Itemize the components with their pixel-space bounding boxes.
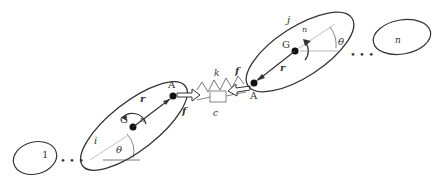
spring-k-label: k bbox=[214, 68, 219, 78]
body-1: 1 bbox=[10, 137, 61, 179]
theta-i-label: θ bbox=[116, 144, 122, 155]
body-nb-label: n bbox=[395, 35, 401, 45]
damper: c bbox=[197, 91, 246, 118]
force-fj-label: f bbox=[234, 65, 241, 76]
rigid-body-diagram: 1 • • • i G θ n r A f k c f bbox=[0, 0, 437, 188]
moment-nj-label: n bbox=[302, 25, 307, 34]
force-fi-label: f bbox=[181, 105, 188, 116]
body-j-label: j bbox=[285, 14, 290, 25]
ellipsis-right: • • • bbox=[350, 49, 374, 60]
body-1-label: 1 bbox=[42, 149, 48, 160]
vector-r-i-label: r bbox=[140, 93, 146, 104]
anchor-aj-label: A bbox=[249, 90, 258, 101]
vector-r-j-label: r bbox=[280, 62, 286, 73]
damper-c-label: c bbox=[213, 108, 218, 118]
body-nb: n bbox=[370, 15, 433, 59]
centroid-gj-label: G bbox=[282, 39, 290, 50]
body-i-label: i bbox=[94, 135, 97, 146]
anchor-ai-label: A bbox=[167, 79, 176, 90]
body-j: j G θ n r A bbox=[234, 0, 365, 107]
body-i: i G θ n r A bbox=[68, 67, 200, 185]
theta-j-label: θ bbox=[338, 36, 344, 47]
